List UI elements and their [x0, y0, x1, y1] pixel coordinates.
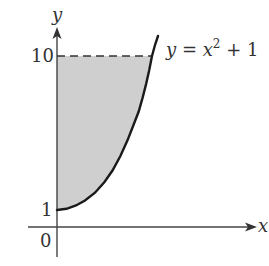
curve-label-lhs: y = x: [165, 39, 213, 60]
y-axis-label: y: [51, 4, 63, 25]
tick-label-1: 1: [41, 199, 52, 220]
curve-label: y = x2 + 1: [165, 37, 258, 60]
tick-label-10: 10: [31, 45, 54, 66]
shaded-region: [57, 56, 152, 210]
diagram-canvas: y x 10 1 0 y = x2 + 1: [0, 0, 269, 266]
tick-label-0: 0: [40, 230, 51, 251]
curve-label-exponent: 2: [213, 37, 221, 51]
x-axis-label: x: [258, 215, 268, 236]
region-diagram: y x 10 1 0 y = x2 + 1: [0, 0, 269, 266]
curve-label-rhs: + 1: [221, 39, 259, 60]
